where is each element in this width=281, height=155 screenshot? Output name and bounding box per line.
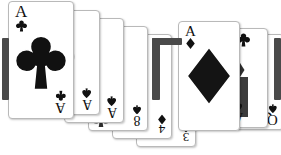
card-stack-edge-left bbox=[2, 38, 9, 100]
card-rank: A bbox=[107, 106, 117, 118]
card-stack-edge-right-fan bbox=[152, 38, 160, 100]
card-rank: Q bbox=[267, 113, 278, 126]
card-index-bottom-right: A bbox=[82, 88, 92, 110]
spade-icon bbox=[133, 105, 141, 114]
card-index-bottom-right: 8 bbox=[133, 105, 141, 126]
playing-cards-scene: 3 4 8 bbox=[0, 0, 281, 155]
card-ace-of-clubs[interactable]: A A bbox=[8, 1, 74, 119]
card-index-bottom-right: Q bbox=[267, 104, 278, 126]
card-index-bottom-right: A bbox=[55, 90, 66, 114]
card-rank: 8 bbox=[134, 114, 141, 126]
spade-icon bbox=[82, 88, 91, 98]
spade-icon bbox=[107, 96, 116, 106]
card-index-bottom-right: A bbox=[107, 96, 117, 118]
card-rank: 4 bbox=[159, 124, 166, 135]
card-rank: 3 bbox=[183, 132, 190, 143]
diamond-icon bbox=[158, 114, 166, 124]
card-stack-edge-top-connector bbox=[152, 38, 182, 45]
card-stack-edge-far-right bbox=[274, 38, 281, 100]
card-index-bottom-right: 4 bbox=[158, 114, 166, 135]
diamond-pip-large bbox=[179, 22, 239, 130]
card-rank: A bbox=[82, 98, 92, 110]
card-ace-of-diamonds[interactable]: A bbox=[178, 21, 240, 131]
card-rank: A bbox=[55, 101, 66, 114]
spade-icon bbox=[269, 104, 277, 113]
club-icon bbox=[56, 90, 66, 101]
